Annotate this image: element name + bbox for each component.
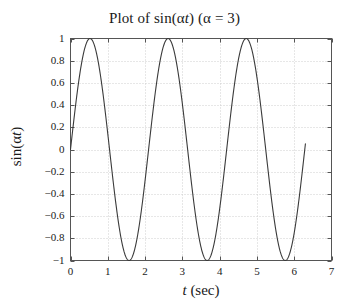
y-tick-label: 0 bbox=[31, 143, 65, 155]
y-tick-label: 0.2 bbox=[31, 120, 65, 132]
y-tick-label: −0.4 bbox=[31, 187, 65, 199]
x-tick-label: 5 bbox=[247, 265, 267, 277]
y-tick-label: 0.6 bbox=[31, 76, 65, 88]
data-series-line bbox=[71, 39, 306, 261]
x-tick-label: 6 bbox=[284, 265, 304, 277]
figure-container: Plot of sin(αt) (α = 3) sin(αt) t (sec) … bbox=[0, 0, 349, 308]
y-tick-label: 0.8 bbox=[31, 54, 65, 66]
x-tick-label: 1 bbox=[98, 265, 118, 277]
y-tick-label: 0.4 bbox=[31, 98, 65, 110]
y-tick-label: −1 bbox=[31, 254, 65, 266]
data-series-group bbox=[71, 39, 306, 261]
x-tick-label: 7 bbox=[322, 265, 342, 277]
x-tick-label: 0 bbox=[61, 265, 81, 277]
x-tick-label: 4 bbox=[210, 265, 230, 277]
x-tick-label: 3 bbox=[172, 265, 192, 277]
y-tick-label: 1 bbox=[31, 32, 65, 44]
y-tick-label: −0.6 bbox=[31, 209, 65, 221]
y-tick-label: −0.2 bbox=[31, 165, 65, 177]
y-tick-label: −0.8 bbox=[31, 231, 65, 243]
x-tick-label: 2 bbox=[135, 265, 155, 277]
